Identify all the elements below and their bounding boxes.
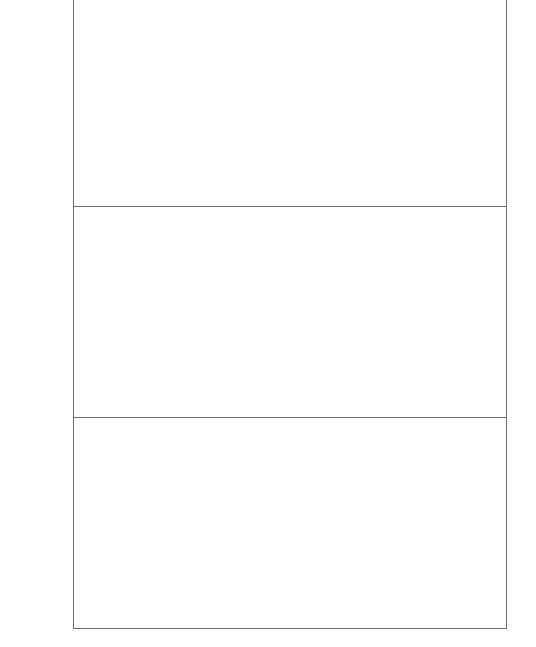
- panel-top: [74, 0, 506, 206]
- panel-bottom: [74, 417, 506, 628]
- panel-middle: [74, 206, 506, 417]
- document-frame: [73, 0, 507, 629]
